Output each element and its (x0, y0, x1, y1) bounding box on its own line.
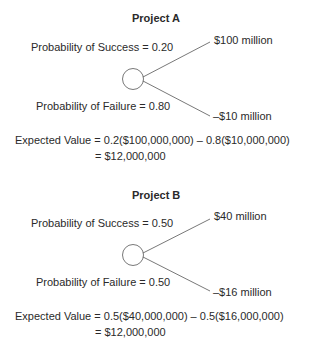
project-b-failure-outcome: –$16 million (213, 286, 272, 298)
project-a-success-probability: Probability of Success = 0.20 (31, 41, 173, 53)
project-a-failure-outcome: –$10 million (213, 110, 272, 122)
project-b-title: Project B (132, 189, 180, 201)
project-a-expected-value-result: = $12,000,000 (95, 150, 166, 162)
chance-node-b (123, 245, 144, 266)
project-b-expected-value-formula: Expected Value = 0.5($40,000,000) – 0.5(… (15, 310, 284, 322)
chance-node-a (123, 69, 144, 90)
project-a-expected-value-formula: Expected Value = 0.2($100,000,000) – 0.8… (15, 134, 290, 146)
project-b-failure-probability: Probability of Failure = 0.50 (36, 276, 170, 288)
project-b-success-probability: Probability of Success = 0.50 (31, 217, 173, 229)
project-a-title: Project A (132, 12, 180, 24)
project-a-success-outcome: $100 million (214, 34, 273, 46)
project-a-failure-probability: Probability of Failure = 0.80 (36, 100, 170, 112)
project-b-success-outcome: $40 million (214, 210, 267, 222)
project-b-expected-value-result: = $12,000,000 (95, 326, 166, 338)
